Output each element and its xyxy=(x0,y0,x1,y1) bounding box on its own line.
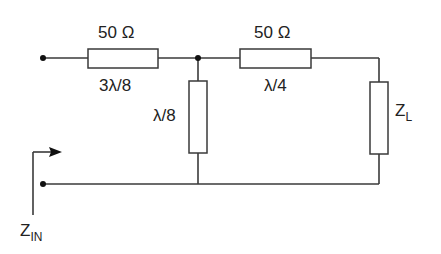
load-element xyxy=(370,82,388,154)
input-impedance-arrow-icon xyxy=(33,147,62,215)
series-line-1-element xyxy=(88,49,158,68)
load-impedance-label: ZL xyxy=(395,102,412,119)
series-line-1-length-label: 3λ/8 xyxy=(99,77,131,94)
circuit-diagram xyxy=(0,0,441,254)
input-label-sub: IN xyxy=(30,230,42,244)
input-terminal-bottom-dot xyxy=(40,181,46,187)
series-line-2-length-label: λ/4 xyxy=(264,77,287,94)
load-label-main: Z xyxy=(395,101,405,120)
input-label-main: Z xyxy=(20,221,30,240)
series-line-1-impedance-label: 50 Ω xyxy=(98,24,134,41)
series-line-2-element xyxy=(240,49,311,68)
shunt-stub-element xyxy=(189,81,207,153)
input-terminal-top-dot xyxy=(40,55,46,61)
input-impedance-label: ZIN xyxy=(20,222,42,239)
load-label-sub: L xyxy=(405,110,412,124)
junction-dot xyxy=(195,55,201,61)
series-line-2-impedance-label: 50 Ω xyxy=(254,24,290,41)
shunt-stub-length-label: λ/8 xyxy=(153,107,176,124)
